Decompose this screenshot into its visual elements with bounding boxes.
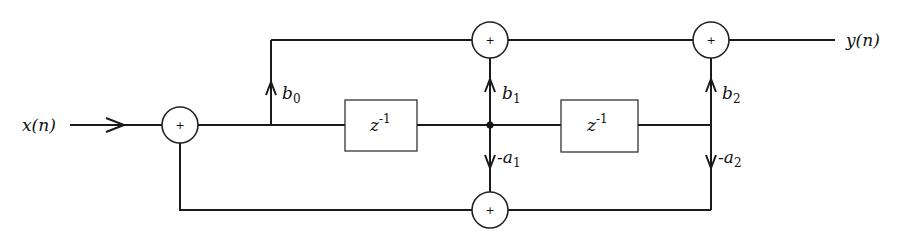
b1-label: b1 bbox=[502, 83, 521, 106]
feedback-adder-plus: + bbox=[485, 204, 494, 217]
top-adder-1-plus: + bbox=[485, 34, 494, 47]
a2-label: -a2 bbox=[718, 147, 742, 170]
input-adder-plus: + bbox=[175, 119, 184, 132]
filter-diagram: x(n) + b0 + + y(n) z-1 b1 -a1 z-1 b2 -a2… bbox=[0, 0, 909, 238]
output-adder-plus: + bbox=[706, 34, 715, 47]
b2-label: b2 bbox=[722, 83, 741, 106]
a1-label: -a1 bbox=[497, 147, 521, 170]
input-label: x(n) bbox=[22, 115, 56, 135]
feedback-wire bbox=[180, 143, 472, 210]
output-label: y(n) bbox=[845, 30, 880, 50]
b0-label: b0 bbox=[282, 83, 301, 106]
delay-2-box bbox=[561, 100, 638, 152]
